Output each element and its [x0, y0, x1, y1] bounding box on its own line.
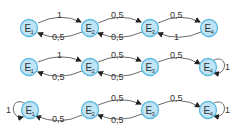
edge-label: 1 — [174, 32, 179, 42]
state-e2: E2 — [82, 59, 99, 76]
edge-label: 1 — [57, 10, 62, 20]
state-e2: E2 — [82, 20, 99, 37]
edge-label: 0,5 — [52, 114, 65, 124]
state-e3: E3 — [142, 59, 159, 76]
edge-label: 0,5 — [111, 50, 124, 60]
edge-e4-e3 — [158, 32, 201, 37]
edge-label: 0,5 — [111, 10, 124, 20]
state-e2: E2 — [82, 102, 99, 119]
edge-label: 0,5 — [52, 72, 65, 82]
state-e4: E4 — [200, 102, 217, 119]
state-e3: E3 — [142, 102, 159, 119]
edge-label: 0,5 — [170, 10, 183, 20]
diagram-1: 1 0,5 0,5 0,5 0,5 1 E1 E2 E3 E4 — [21, 10, 218, 42]
state-e4: E4 — [200, 59, 217, 76]
diagram-2: 1 0,5 0,5 0,5 0,5 1 E1 E2 E3 E4 — [21, 50, 231, 82]
edge-label: 0,5 — [111, 32, 124, 42]
edge-label: 0,5 — [52, 32, 65, 42]
edge-label: 0,5 — [111, 93, 124, 103]
markov-chain-diagrams: 1 0,5 0,5 0,5 0,5 1 E1 E2 E3 E4 1 0,5 0,… — [0, 0, 237, 128]
edge-label: 1 — [225, 105, 230, 115]
state-e3: E3 — [142, 20, 159, 37]
edge-label: 0,5 — [170, 93, 183, 103]
edge-label: 1 — [225, 62, 230, 72]
edge-label: 0,5 — [170, 50, 183, 60]
edge-label: 1 — [57, 50, 62, 60]
edge-label: 0,5 — [111, 72, 124, 82]
edge-label: 0,5 — [111, 115, 124, 125]
state-e1: E1 — [21, 59, 38, 76]
edge-label: 1 — [6, 105, 11, 115]
diagram-3: 1 0,5 0,5 0,5 0,5 1 E1 E2 E3 E4 — [6, 93, 230, 125]
state-e4: E4 — [201, 20, 218, 37]
state-e1: E1 — [21, 20, 38, 37]
state-e1: E1 — [22, 102, 39, 119]
